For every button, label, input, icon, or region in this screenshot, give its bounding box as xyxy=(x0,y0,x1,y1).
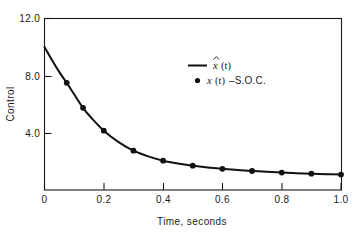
x-axis-title: Time, seconds xyxy=(157,216,227,227)
data-point xyxy=(101,128,107,134)
data-point xyxy=(338,172,344,178)
chart-canvas: 12.0 8.0 4.0 0 0.2 0.4 0.6 0.8 1.0 Time,… xyxy=(0,0,359,239)
x-tick-label-0: 0 xyxy=(42,194,48,205)
x-tick-label-0-6: 0.6 xyxy=(215,194,230,205)
legend-entry-estimate: x (t) xyxy=(212,57,231,72)
data-point xyxy=(80,105,86,111)
y-tick-label-8: 8.0 xyxy=(25,71,40,82)
legend-entry-soc-var: x xyxy=(206,75,212,86)
legend-entry-estimate-arg: (t) xyxy=(221,60,231,72)
x-axis-ticks xyxy=(45,183,342,190)
legend: x (t) x (t) –S.O.C. xyxy=(188,57,266,87)
y-axis-ticks xyxy=(45,19,52,134)
data-point xyxy=(220,166,226,172)
legend-dot-swatch xyxy=(195,78,200,83)
soc-markers xyxy=(64,80,344,178)
data-point xyxy=(131,148,137,154)
x-tick-label-0-8: 0.8 xyxy=(275,194,290,205)
y-tick-label-12: 12.0 xyxy=(19,13,40,24)
y-axis-title: Control xyxy=(5,86,16,121)
data-point xyxy=(279,170,285,176)
x-tick-label-0-2: 0.2 xyxy=(97,194,112,205)
data-series-group xyxy=(45,47,344,177)
legend-entry-soc-suffix: –S.O.C. xyxy=(229,75,266,86)
legend-entry-estimate-var: x xyxy=(212,60,218,71)
x-tick-label-0-4: 0.4 xyxy=(156,194,171,205)
x-tick-label-1-0: 1.0 xyxy=(334,194,349,205)
data-point xyxy=(160,158,166,164)
data-point xyxy=(249,168,255,174)
data-point xyxy=(64,80,70,86)
data-point xyxy=(190,163,196,169)
legend-entry-soc-arg: (t) xyxy=(215,75,225,87)
legend-entry-soc: x (t) –S.O.C. xyxy=(206,75,266,87)
data-point xyxy=(308,171,314,177)
chart-figure: 12.0 8.0 4.0 0 0.2 0.4 0.6 0.8 1.0 Time,… xyxy=(0,0,359,239)
y-tick-label-4: 4.0 xyxy=(25,128,40,139)
